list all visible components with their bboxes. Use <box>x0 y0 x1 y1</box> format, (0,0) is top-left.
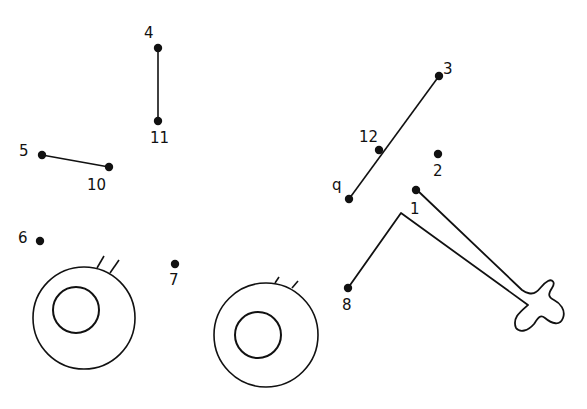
dot-7 <box>171 260 179 268</box>
dot-label-6: 6 <box>18 229 28 247</box>
dot-10 <box>105 163 113 171</box>
segment-5-10 <box>42 155 109 167</box>
dot-2 <box>434 150 442 158</box>
dot-8 <box>344 284 352 292</box>
dot-12 <box>375 146 383 154</box>
dot-label-8: 8 <box>342 296 352 314</box>
dot-1 <box>412 186 420 194</box>
dot-label-1: 1 <box>410 200 420 218</box>
dot-label-10: 10 <box>87 176 106 194</box>
dot-label-2: 2 <box>433 162 443 180</box>
dot-4 <box>154 44 162 52</box>
wheel-right <box>214 277 318 387</box>
dot-label-7: 7 <box>169 271 179 289</box>
dot-to-dot-canvas: 12345678q101112 <box>0 0 587 409</box>
numbered-dots: 12345678q101112 <box>18 24 453 314</box>
dot-6 <box>36 237 44 245</box>
crane-arm <box>348 190 564 331</box>
dot-label-q: q <box>332 176 342 194</box>
dot-label-11: 11 <box>150 129 169 147</box>
dot-5 <box>38 151 46 159</box>
dot-q <box>345 195 353 203</box>
dot-11 <box>154 117 162 125</box>
dot-label-3: 3 <box>443 60 453 78</box>
dot-label-4: 4 <box>144 24 154 42</box>
wheel-left <box>33 256 135 369</box>
dot-label-5: 5 <box>19 142 29 160</box>
dot-3 <box>435 72 443 80</box>
dot-label-12: 12 <box>359 128 378 146</box>
